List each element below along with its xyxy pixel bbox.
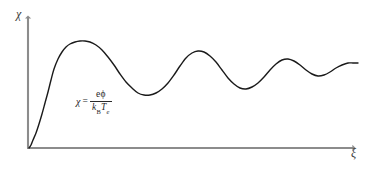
figure-container: χ ξ χ = eϕ kBTe bbox=[0, 0, 369, 177]
formula-equals-sign: = bbox=[82, 97, 87, 107]
formula-lhs-chi: χ bbox=[76, 97, 80, 107]
plot-canvas bbox=[0, 0, 369, 177]
caption-sliver bbox=[0, 172, 369, 177]
formula-annotation: χ = eϕ kBTe bbox=[76, 90, 112, 114]
x-axis-label-xi: ξ bbox=[351, 147, 356, 159]
formula-denominator-T-subscript: e bbox=[106, 108, 109, 115]
y-axis-label-chi: χ bbox=[16, 8, 21, 20]
formula-denominator: kBTe bbox=[90, 102, 112, 114]
formula-numerator: eϕ bbox=[94, 90, 108, 101]
formula-numerator-phi: ϕ bbox=[100, 89, 105, 99]
formula-fraction: eϕ kBTe bbox=[90, 90, 112, 114]
formula-denominator-k-subscript: B bbox=[96, 108, 101, 115]
